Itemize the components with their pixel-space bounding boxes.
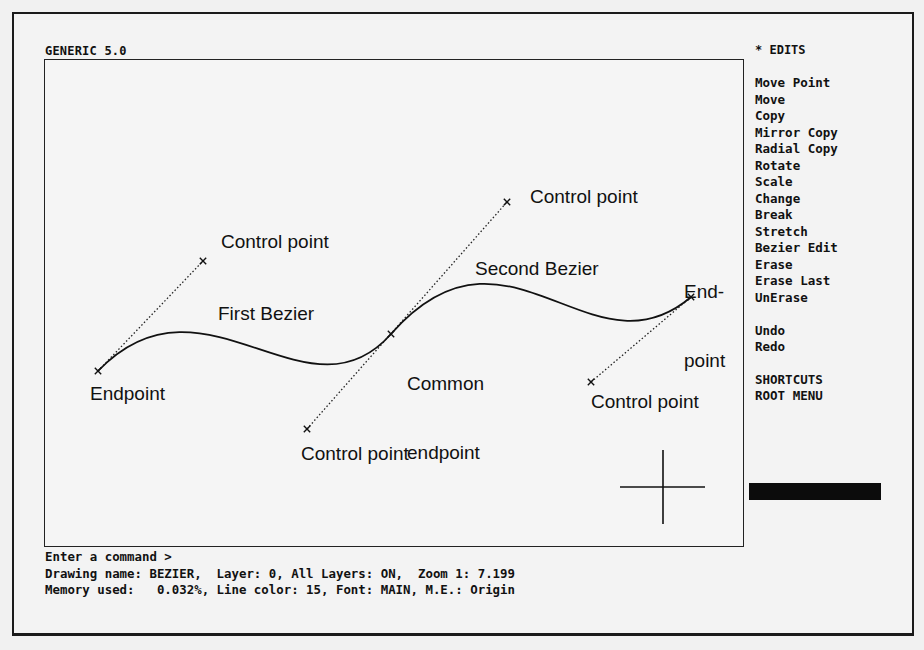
status-indicator-bar — [749, 483, 881, 500]
control-point-3-marker-icon[interactable] — [504, 199, 510, 205]
menu-item-shortcuts[interactable]: SHORTCUTS — [755, 372, 823, 388]
menu-item-copy[interactable]: Copy — [755, 108, 785, 124]
label-first-bezier: First Bezier — [218, 302, 314, 325]
menu-header-edits: * EDITS — [755, 43, 806, 57]
menu-item-redo[interactable]: Redo — [755, 339, 785, 355]
control-point-1-marker-icon[interactable] — [200, 258, 206, 264]
menu-item-break[interactable]: Break — [755, 207, 793, 223]
control-line-3 — [591, 297, 691, 382]
label-second-bezier: Second Bezier — [475, 257, 599, 280]
command-prompt[interactable]: Enter a command > — [45, 549, 172, 564]
control-point-2-marker-icon[interactable] — [304, 426, 310, 432]
label-control-point-2: Control point — [301, 442, 409, 465]
menu-item-move[interactable]: Move — [755, 92, 785, 108]
menu-item-root-menu[interactable]: ROOT MENU — [755, 388, 823, 404]
menu-item-unerase[interactable]: UnErase — [755, 290, 808, 306]
label-endpoint-2-line1: End- — [684, 280, 725, 303]
menu-item-bezier-edit[interactable]: Bezier Edit — [755, 240, 838, 256]
menu-item-erase-last[interactable]: Erase Last — [755, 273, 830, 289]
control-point-4-marker-icon[interactable] — [588, 379, 594, 385]
label-control-point-1: Control point — [221, 230, 329, 253]
label-endpoint-2: End- point — [684, 234, 725, 395]
menu-item-mirror-copy[interactable]: Mirror Copy — [755, 125, 838, 141]
label-control-point-4: Control point — [591, 390, 699, 413]
menu-item-rotate[interactable]: Rotate — [755, 158, 800, 174]
menu-item-stretch[interactable]: Stretch — [755, 224, 808, 240]
crosshair-cursor-icon — [620, 450, 705, 524]
menu-item-change[interactable]: Change — [755, 191, 800, 207]
menu-item-undo[interactable]: Undo — [755, 323, 785, 339]
label-endpoint-2-line2: point — [684, 349, 725, 372]
first-bezier-curve[interactable] — [98, 332, 391, 371]
label-common-endpoint: Common endpoint — [407, 326, 484, 487]
label-control-point-3: Control point — [530, 185, 638, 208]
menu-item-radial-copy[interactable]: Radial Copy — [755, 141, 838, 157]
endpoint-1-marker-icon[interactable] — [95, 368, 101, 374]
common-endpoint-marker-icon[interactable] — [388, 331, 394, 337]
status-line-memory: Memory used: 0.032%, Line color: 15, Fon… — [45, 582, 515, 597]
label-endpoint-1: Endpoint — [90, 382, 165, 405]
menu-item-scale[interactable]: Scale — [755, 174, 793, 190]
control-line-1 — [98, 261, 203, 371]
label-common-endpoint-line1: Common — [407, 372, 484, 395]
status-line-drawing: Drawing name: BEZIER, Layer: 0, All Laye… — [45, 566, 515, 581]
label-common-endpoint-line2: endpoint — [407, 441, 484, 464]
menu-item-erase[interactable]: Erase — [755, 257, 793, 273]
menu-item-move-point[interactable]: Move Point — [755, 75, 830, 91]
